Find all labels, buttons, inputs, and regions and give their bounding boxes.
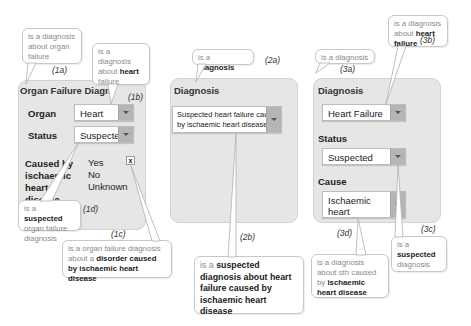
callout-emphasis: diagnosis bbox=[198, 63, 234, 72]
dropdown-arrow-icon[interactable] bbox=[390, 149, 405, 164]
status-select[interactable]: Suspected bbox=[74, 126, 134, 143]
callout-text: is a bbox=[397, 240, 409, 249]
cause-value-line: disease bbox=[328, 217, 387, 218]
organ-label: Organ bbox=[28, 108, 56, 120]
callout-emphasis: heart bbox=[120, 67, 139, 76]
cause-option-unknown[interactable]: Unknown bbox=[88, 181, 128, 193]
tag-3c: (3c) bbox=[421, 224, 436, 234]
panel1-title-text: Organ Failure Diagn bbox=[20, 85, 111, 96]
panel2-title: Diagnosis bbox=[174, 85, 219, 96]
status-select-3[interactable]: Suspected bbox=[322, 148, 406, 165]
callout-emphasis: suspected bbox=[397, 250, 436, 259]
callout-text: failure bbox=[98, 77, 119, 86]
cause-select-3[interactable]: Ischaemic heart disease bbox=[322, 191, 406, 218]
cause-value-line: Ischaemic heart bbox=[328, 195, 387, 217]
cause-option-yes[interactable]: Yes bbox=[88, 157, 104, 169]
callout-text: is a diagnosis bbox=[321, 53, 368, 62]
cause-option-no[interactable]: No bbox=[88, 169, 100, 181]
caused-by-label-line: Caused by bbox=[25, 158, 73, 170]
callout-3d: is a diagnosis about sth caused by ischa… bbox=[311, 254, 389, 298]
status-label: Status bbox=[28, 130, 57, 142]
status-label-3: Status bbox=[318, 133, 347, 145]
diagnosis-value-line: by ischaemic heart disease bbox=[177, 120, 263, 130]
diagnosis-value-line: Suspected heart failure caused bbox=[177, 110, 263, 120]
tag-2b: (2b) bbox=[240, 232, 255, 242]
callout-3c: is a suspected diagnosis bbox=[391, 236, 447, 272]
clear-selection-button[interactable]: x bbox=[126, 156, 135, 165]
tag-1a: (1a) bbox=[52, 65, 67, 75]
callout-text: is a diagnosis about organ failure bbox=[28, 32, 75, 61]
tag-1c: (1c) bbox=[111, 229, 126, 239]
callout-text: organ failure diagnosis bbox=[24, 224, 67, 243]
diagnosis-select-3[interactable]: Heart Failure bbox=[322, 104, 406, 121]
tag-3d: (3d) bbox=[337, 228, 352, 238]
dropdown-arrow-icon[interactable] bbox=[390, 105, 405, 120]
dropdown-arrow-icon[interactable] bbox=[390, 192, 405, 217]
callout-1b: is a diagnosis about heart failure bbox=[92, 43, 150, 85]
organ-select-value: Heart bbox=[80, 108, 103, 119]
callout-2a: is a diagnosis bbox=[192, 49, 254, 65]
diagnosis-select-2[interactable]: Suspected heart failure caused by ischae… bbox=[172, 106, 282, 133]
caused-by-label-line: heart bbox=[25, 182, 73, 194]
callout-text: is a bbox=[200, 260, 216, 270]
callout-2b: is a suspected diagnosis about heart fai… bbox=[194, 256, 304, 314]
tag-2a: (2a) bbox=[265, 55, 280, 65]
tag-3a: (3a) bbox=[340, 64, 355, 74]
tag-1d: (1d) bbox=[83, 204, 98, 214]
callout-1c: is a organ failure diagnosis about a dis… bbox=[62, 240, 172, 278]
tag-1b: (1b) bbox=[128, 92, 143, 102]
status-select-value: Suspected bbox=[328, 152, 373, 163]
callout-text: diagnosis bbox=[397, 260, 430, 269]
callout-3b: is a diagnosis about heart failure bbox=[388, 15, 448, 47]
tag-3b: (3b) bbox=[420, 35, 435, 45]
callout-text: is a bbox=[24, 204, 36, 213]
panel1-title: Organ Failure Diagn bbox=[20, 85, 111, 96]
organ-select[interactable]: Heart bbox=[74, 104, 134, 121]
diagnosis-select-value: Heart Failure bbox=[328, 108, 383, 119]
dropdown-arrow-icon[interactable] bbox=[118, 127, 133, 142]
cause-label-3: Cause bbox=[318, 176, 347, 188]
panel3-title: Diagnosis bbox=[318, 85, 363, 96]
caused-by-label: Caused by ischaemic heart disease bbox=[25, 158, 73, 206]
callout-1d: is a suspected organ failure diagnosis bbox=[18, 200, 81, 231]
diagnosis-panel-2 bbox=[170, 78, 298, 223]
dropdown-arrow-icon[interactable] bbox=[118, 105, 133, 120]
callout-1a: is a diagnosis about organ failure bbox=[22, 28, 82, 64]
callout-text: is a bbox=[198, 53, 210, 62]
dropdown-arrow-icon[interactable] bbox=[266, 107, 281, 132]
callout-emphasis: suspected bbox=[24, 214, 63, 223]
callout-3a: is a diagnosis bbox=[315, 49, 375, 64]
caused-by-label-line: ischaemic bbox=[25, 170, 73, 182]
